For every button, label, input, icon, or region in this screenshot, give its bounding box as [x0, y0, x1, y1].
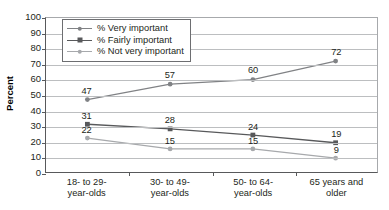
y-tick-mark [42, 96, 46, 97]
y-tick-mark [42, 174, 46, 175]
legend-item[interactable]: % Not very important [67, 46, 184, 58]
data-point-marker [250, 147, 255, 152]
data-point-marker [168, 82, 173, 87]
y-tick-mark [42, 143, 46, 144]
data-label: 19 [331, 130, 341, 139]
data-label: 72 [331, 47, 341, 56]
y-tick-label: 70 [7, 59, 41, 69]
gridline [46, 143, 377, 144]
gridline [46, 112, 377, 113]
x-tick-mark [213, 172, 214, 176]
data-label: 60 [248, 66, 258, 75]
data-label: 28 [165, 116, 175, 125]
data-point-marker [168, 147, 173, 152]
y-tick-mark [42, 34, 46, 35]
data-label: 31 [81, 111, 91, 120]
y-tick-label: 60 [7, 75, 41, 85]
data-point-marker [333, 59, 338, 64]
legend-label: % Fairly important [97, 36, 172, 45]
y-tick-mark [42, 127, 46, 128]
y-tick-label: 20 [7, 137, 41, 147]
legend-label: % Very important [97, 24, 168, 33]
y-tick-label: 80 [7, 43, 41, 53]
gridline [46, 96, 377, 97]
y-tick-label: 40 [7, 106, 41, 116]
data-point-marker [85, 97, 90, 102]
y-tick-mark [42, 49, 46, 50]
legend-circle-marker-icon [67, 23, 92, 34]
y-tick-mark [42, 18, 46, 19]
legend-item[interactable]: % Very important [67, 23, 184, 35]
data-label: 9 [334, 146, 339, 155]
x-axis-label: 65 years andolder [295, 177, 378, 198]
gridline [46, 80, 377, 81]
y-tick-mark [42, 80, 46, 81]
y-tick-mark [42, 65, 46, 66]
series-line [87, 138, 335, 158]
gridline [46, 127, 377, 128]
y-axis-ticks: 0102030405060708090100 [0, 0, 41, 210]
y-tick-label: 90 [7, 28, 41, 38]
data-label: 24 [248, 122, 258, 131]
legend-item[interactable]: % Fairly important [67, 35, 184, 47]
data-label: 22 [81, 125, 91, 134]
legend-square-marker-icon [67, 35, 92, 46]
x-axis-label: 50- to 64-year-olds [212, 177, 295, 198]
x-axis-label: 18- to 29-year-olds [45, 177, 128, 198]
gridline [46, 65, 377, 66]
x-tick-mark [129, 172, 130, 176]
chart-container: Percent 0102030405060708090100 18- to 29… [0, 0, 389, 210]
y-tick-mark [42, 158, 46, 159]
y-tick-label: 100 [7, 12, 41, 22]
gridline [46, 158, 377, 159]
x-tick-mark [296, 172, 297, 176]
y-tick-label: 10 [7, 153, 41, 163]
x-axis-label: 30- to 49-year-olds [128, 177, 211, 198]
legend-label: % Not very important [97, 47, 184, 56]
data-label: 15 [248, 136, 258, 145]
y-tick-mark [42, 112, 46, 113]
data-label: 47 [81, 86, 91, 95]
data-point-marker [85, 136, 90, 141]
y-tick-label: 50 [7, 90, 41, 100]
legend-circle-marker-icon [67, 46, 92, 57]
data-label: 57 [165, 71, 175, 80]
y-tick-label: 30 [7, 121, 41, 131]
chart-legend: % Very important% Fairly important% Not … [62, 19, 191, 62]
data-label: 15 [165, 136, 175, 145]
y-tick-label: 0 [7, 168, 41, 178]
